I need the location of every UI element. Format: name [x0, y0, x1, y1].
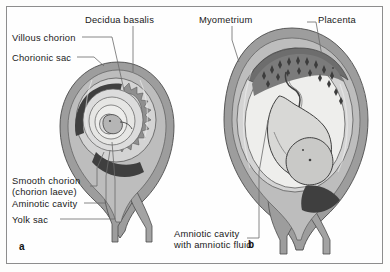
panel-letter-a: a	[19, 241, 25, 252]
panel-a-embryo-eye	[109, 120, 111, 122]
panel-a-group	[60, 62, 174, 242]
panel-b-fetus-nostril	[302, 149, 304, 151]
panel-b-fetus-eye	[309, 159, 312, 162]
panel-letter-b: b	[248, 239, 254, 250]
label-amniotic-cavity-b-line2: with amniotic fluid	[174, 239, 252, 250]
label-amniotic-cavity-a: Aminotic cavity	[12, 198, 77, 209]
label-smooth-chorion-line1: Smooth chorion	[12, 175, 80, 186]
label-smooth-chorion-line2: (chorion laeve)	[12, 186, 77, 197]
label-decidua-basalis: Decidua basalis	[85, 14, 154, 25]
label-amniotic-cavity-b-line1: Amniotic cavity	[174, 228, 239, 239]
panel-b-fetus-head	[286, 138, 333, 185]
label-chorionic-sac: Chorionic sac	[12, 52, 71, 63]
panel-b-group	[224, 28, 368, 254]
leader-myometrium	[232, 26, 239, 62]
label-myometrium: Myometrium	[199, 14, 252, 25]
label-placenta: Placenta	[318, 14, 356, 25]
panel-a-embryo	[103, 115, 122, 134]
label-villous-chorion: Villous chorion	[12, 32, 76, 43]
figure-root: Decidua basalis Myometrium Placenta Vill…	[0, 0, 390, 272]
label-yolk-sac: Yolk sac	[12, 214, 48, 225]
